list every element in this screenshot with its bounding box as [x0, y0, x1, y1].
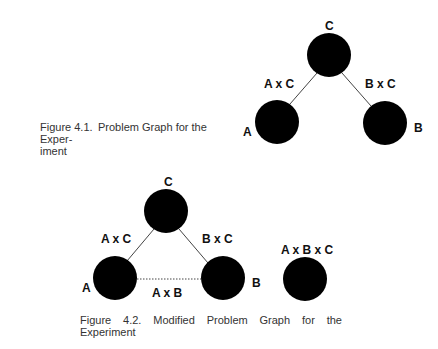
figure-number: 4.2.: [123, 314, 141, 326]
node-a: [255, 100, 299, 144]
caption-word: Graph: [260, 314, 291, 326]
node-a-label: A: [243, 125, 252, 139]
node-c-label: C: [164, 175, 173, 189]
edge-bc-label: B x C: [365, 77, 396, 91]
node-abc-label: A x B x C: [281, 243, 334, 257]
node-abc: [283, 257, 327, 301]
figure-4-1-caption: Figure 4.1.Problem Graph for the Exper- …: [40, 121, 240, 157]
figure-4-2-caption: Figure 4.2. Modified Problem Graph for t…: [80, 314, 342, 338]
figure-number: Figure 4.1.: [40, 121, 98, 133]
node-b: [363, 101, 407, 145]
figure-word: Figure: [80, 314, 111, 326]
caption-word: Modified: [153, 314, 195, 326]
node-b: [201, 256, 245, 300]
edge-ab-label: A x B: [152, 286, 183, 300]
caption-text-continued: iment: [40, 145, 240, 157]
edge-ac-label: A x C: [101, 232, 132, 246]
node-b-label: B: [252, 276, 261, 290]
node-a-label: A: [82, 281, 91, 295]
node-b-label: B: [414, 121, 423, 135]
figure-4-2-graph: C A x C B x C A x B x C A B A x B: [82, 175, 334, 301]
caption-text-continued: Experiment: [80, 326, 342, 338]
node-c: [144, 189, 188, 233]
edge-ac-label: A x C: [264, 77, 295, 91]
caption-word: the: [327, 314, 342, 326]
figure-4-1-graph: C A x C B x C A B: [243, 19, 423, 145]
caption-word: for: [302, 314, 315, 326]
node-c-label: C: [325, 19, 334, 33]
node-c: [307, 33, 351, 77]
diagram-canvas: C A x C B x C A B C A x C B x C A x B x …: [0, 0, 438, 349]
edge-bc-label: B x C: [202, 232, 233, 246]
caption-word: Problem: [207, 314, 248, 326]
node-a: [93, 256, 137, 300]
